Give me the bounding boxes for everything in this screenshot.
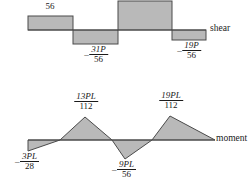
moment-lobe-positive-2 bbox=[152, 116, 215, 140]
minus-sign: – bbox=[15, 157, 20, 166]
minus-sign: – bbox=[177, 46, 182, 55]
moment-label-min-1: –3PL28 bbox=[15, 152, 39, 172]
moment-lobe-negative-2 bbox=[112, 140, 152, 159]
shear-moment-figure: 56 –31P56 –19P56 shear –3PL28 13PL112 –9… bbox=[0, 0, 250, 180]
shear-axis-label: shear bbox=[210, 24, 230, 34]
shear-block-negative-1 bbox=[73, 30, 118, 44]
shear-label-min-2: –19P56 bbox=[177, 41, 201, 61]
moment-lobe-negative-1 bbox=[28, 140, 60, 151]
shear-label-min-1: –31P56 bbox=[84, 45, 108, 65]
moment-label-min-2: –9PL56 bbox=[112, 160, 136, 180]
minus-sign: – bbox=[112, 165, 117, 174]
moment-axis-label: moment bbox=[216, 134, 247, 144]
shear-block-positive-1 bbox=[28, 16, 73, 30]
shear-block-positive-2 bbox=[118, 1, 172, 30]
moment-diagram-group bbox=[28, 116, 215, 159]
moment-lobe-positive-1 bbox=[60, 117, 112, 140]
moment-label-max-1: 13PL112 bbox=[74, 92, 98, 112]
shear-label-peak-1: 56 bbox=[44, 2, 57, 12]
moment-label-max-2: 19PL112 bbox=[159, 91, 183, 111]
shear-block-negative-2 bbox=[172, 30, 206, 40]
minus-sign: – bbox=[84, 50, 89, 59]
